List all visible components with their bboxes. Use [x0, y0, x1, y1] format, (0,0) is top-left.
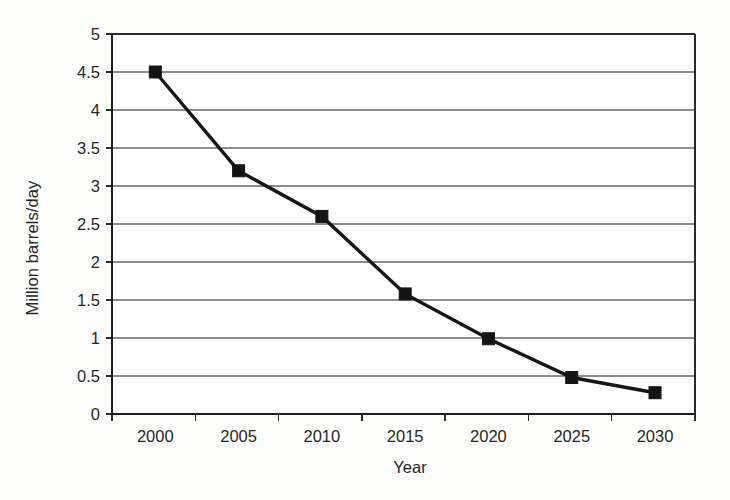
x-tick-label: 2000	[137, 427, 174, 445]
data-point-marker	[566, 372, 578, 384]
y-tick-label: 1.5	[77, 291, 100, 309]
data-point-marker	[482, 333, 494, 345]
line-chart-plot: 00.511.522.533.544.55 200020052010201520…	[0, 0, 730, 500]
chart-figure: Million barrels/day 00.511.522.533.544.5…	[0, 0, 730, 500]
data-point-marker	[233, 165, 245, 177]
y-tick-label: 2.5	[77, 215, 100, 233]
x-tick-label: 2030	[637, 427, 674, 445]
x-tick-marks-group	[112, 414, 695, 421]
x-tick-label: 2015	[387, 427, 424, 445]
x-tick-label: 2010	[304, 427, 341, 445]
x-tick-label: 2025	[553, 427, 590, 445]
y-tick-label: 0	[91, 405, 100, 423]
y-tick-label: 4.5	[77, 63, 100, 81]
y-tick-label: 0.5	[77, 367, 100, 385]
y-tick-labels-group: 00.511.522.533.544.55	[77, 25, 100, 423]
y-tick-label: 5	[91, 25, 100, 43]
data-point-marker	[399, 288, 411, 300]
data-point-marker	[649, 387, 661, 399]
x-tick-label: 2020	[470, 427, 507, 445]
x-tick-labels-group: 2000200520102015202020252030	[137, 427, 673, 445]
y-tick-label: 4	[91, 101, 100, 119]
y-tick-label: 2	[91, 253, 100, 271]
y-tick-marks-group	[106, 34, 112, 414]
y-tick-label: 1	[91, 329, 100, 347]
y-tick-label: 3.5	[77, 139, 100, 157]
data-point-marker	[316, 210, 328, 222]
y-tick-label: 3	[91, 177, 100, 195]
x-tick-label: 2005	[220, 427, 257, 445]
x-axis-title: Year	[340, 458, 480, 477]
data-point-marker	[149, 66, 161, 78]
